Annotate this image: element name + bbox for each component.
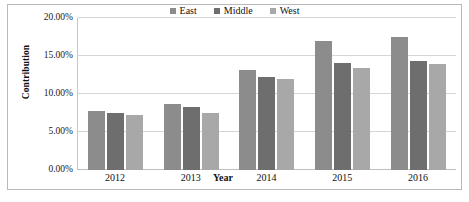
x-tick-label-2014: 2014 [257, 172, 277, 183]
bar-west-2013[interactable] [202, 113, 219, 170]
bar-west-2014[interactable] [277, 79, 294, 170]
bar-west-2012[interactable] [126, 115, 143, 170]
bar-group-2015 [305, 18, 381, 170]
chart-plot-frame: Contribution EastMiddleWest 0.00%5.00%10… [7, 4, 462, 190]
y-tick-label: 20.00% [44, 12, 73, 22]
legend-swatch-icon [214, 8, 220, 14]
legend-entry-west[interactable]: West [270, 5, 300, 16]
x-tick-label-2012: 2012 [105, 172, 125, 183]
y-axis-title: Contribution [21, 32, 31, 112]
x-tick-label-2013: 2013 [181, 172, 201, 183]
plot-area: 0.00%5.00%10.00%15.00%20.00% [77, 18, 456, 170]
bar-group-2012 [78, 18, 154, 170]
legend-label: West [280, 5, 300, 16]
bar-east-2014[interactable] [239, 70, 256, 170]
legend-label: East [180, 5, 197, 16]
bars-layer [78, 18, 456, 170]
legend-entry-middle[interactable]: Middle [214, 5, 253, 16]
x-tick-label-2015: 2015 [332, 172, 352, 183]
bar-middle-2015[interactable] [334, 63, 351, 170]
bar-group-2016 [380, 18, 456, 170]
x-axis-labels: 20122013201420152016Year [77, 172, 456, 190]
y-tick-label: 15.00% [44, 50, 73, 60]
legend-entry-east[interactable]: East [170, 5, 197, 16]
bar-middle-2016[interactable] [410, 61, 427, 170]
bar-middle-2012[interactable] [107, 113, 124, 170]
bar-group-2013 [154, 18, 230, 170]
y-tick-label: 0.00% [48, 164, 73, 174]
bar-middle-2014[interactable] [258, 77, 275, 170]
bar-group-2014 [229, 18, 305, 170]
bar-west-2015[interactable] [353, 68, 370, 170]
x-axis-title: Year [213, 172, 233, 183]
bar-chart: Contribution EastMiddleWest 0.00%5.00%10… [0, 0, 469, 202]
bar-west-2016[interactable] [429, 64, 446, 170]
bar-middle-2013[interactable] [183, 107, 200, 170]
legend-label: Middle [224, 5, 253, 16]
bar-east-2013[interactable] [164, 104, 181, 170]
x-tick-label-2016: 2016 [408, 172, 428, 183]
y-tick-label: 5.00% [48, 126, 73, 136]
bar-east-2012[interactable] [88, 111, 105, 170]
y-tick-label: 10.00% [44, 88, 73, 98]
bar-east-2016[interactable] [391, 37, 408, 170]
legend-swatch-icon [170, 8, 176, 14]
bar-east-2015[interactable] [315, 41, 332, 170]
legend-swatch-icon [270, 8, 276, 14]
chart-legend: EastMiddleWest [8, 5, 461, 16]
